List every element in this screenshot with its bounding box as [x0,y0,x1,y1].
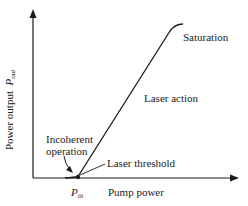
incoherent-pointer-arrowhead-icon [66,166,73,173]
y-axis-label: Power output Pout [3,70,17,150]
saturation-label: Saturation [183,31,228,43]
x-axis-arrow-icon [230,175,239,182]
laser-action-label: Laser action [144,92,198,104]
x-axis-label: Pump power [108,186,164,198]
incoherent-label-line1: Incoherent [46,133,93,145]
y-axis-symbol-subscript: out [9,70,17,79]
y-axis-arrow-icon [30,9,37,18]
y-axis-symbol: P [3,79,15,86]
threshold-tick-label: Pth [71,186,83,202]
laser-threshold-label: Laser threshold [107,157,175,169]
threshold-symbol-subscript: th [78,192,83,200]
threshold-point [76,175,80,179]
y-axis-label-text: Power output [3,91,15,150]
threshold-pointer-line [80,164,105,175]
incoherent-label-line2: operation [46,145,88,157]
threshold-symbol: P [71,186,78,198]
